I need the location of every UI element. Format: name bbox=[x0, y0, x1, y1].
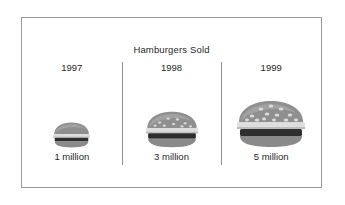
year-label: 1997 bbox=[61, 62, 82, 74]
chart-frame: Hamburgers Sold 1997 1 million 1998 bbox=[21, 17, 322, 188]
hamburger-icon bbox=[235, 100, 307, 148]
value-label: 3 million bbox=[154, 151, 189, 163]
pictograph-column-1999: 1999 bbox=[221, 61, 321, 165]
year-label: 1998 bbox=[161, 62, 182, 74]
pictograph-column-1998: 1998 bbox=[122, 61, 222, 165]
pictograph-column-1997: 1997 1 million bbox=[22, 61, 122, 165]
burger-slot bbox=[22, 74, 122, 151]
burger-slot bbox=[122, 74, 222, 151]
chart-title: Hamburgers Sold bbox=[22, 44, 321, 55]
burger-slot bbox=[221, 74, 321, 151]
value-label: 1 million bbox=[54, 151, 89, 163]
hamburger-icon bbox=[144, 111, 200, 148]
year-label: 1999 bbox=[261, 62, 282, 74]
hamburger-icon bbox=[52, 122, 91, 148]
pictograph-columns: 1997 1 million 1998 bbox=[22, 61, 321, 165]
value-label: 5 million bbox=[254, 151, 289, 163]
